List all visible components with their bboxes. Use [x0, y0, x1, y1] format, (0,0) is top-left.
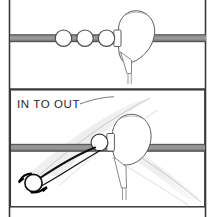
golf-ball-2: [77, 30, 93, 46]
golf-ball-flight: [25, 174, 42, 191]
golf-ball-3: [98, 30, 114, 46]
figure-canvas: IN TO OUT: [0, 0, 214, 217]
golf-ball-1: [55, 30, 71, 46]
golf-balls-top: [55, 30, 114, 46]
in-to-out-label: IN TO OUT: [17, 98, 80, 110]
golf-swing-path-figure: IN TO OUT: [0, 0, 214, 217]
